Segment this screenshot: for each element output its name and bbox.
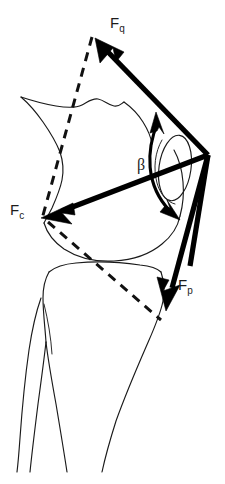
fq-label-base: F bbox=[110, 14, 119, 31]
diagram-background bbox=[0, 0, 225, 484]
figure-caption bbox=[0, 479, 225, 484]
figure-root: Fq Fc Fp β bbox=[0, 0, 225, 484]
fq-label-sub: q bbox=[119, 23, 125, 34]
fp-label-sub: p bbox=[187, 285, 193, 296]
fc-label-sub: c bbox=[19, 210, 24, 221]
beta-angle-label: β bbox=[137, 156, 145, 174]
knee-force-diagram: Fq Fc Fp β bbox=[0, 0, 225, 484]
fc-label-base: F bbox=[10, 201, 19, 218]
fp-label-base: F bbox=[178, 276, 187, 293]
